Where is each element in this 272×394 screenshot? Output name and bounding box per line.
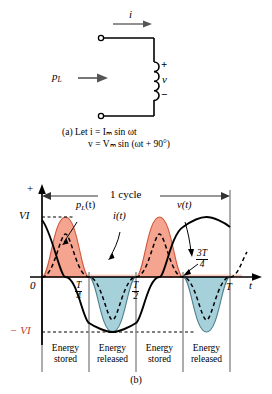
y-axis-arrowhead	[38, 184, 46, 194]
terminal-bottom	[98, 113, 103, 118]
region-label-3: Energy released	[183, 343, 230, 365]
tick-3t4-den: 4	[196, 260, 208, 270]
neg-vi-level-label: − VI	[10, 324, 31, 336]
minus-sign: −	[161, 88, 167, 100]
caption-a: (a) Let i = Iₘ sin ωt v = Vₘ sin (ωt + 9…	[62, 126, 170, 150]
voltage-label: v	[162, 73, 167, 85]
figure-container: i pL + v − (a) Let i = Iₘ sin ωt v = Vₘ …	[0, 0, 272, 394]
current-arrow-head	[143, 21, 152, 28]
power-curve-label: pL(t)	[76, 199, 95, 212]
caption-a-line1: (a) Let i = Iₘ sin ωt	[62, 127, 137, 137]
current-label: i	[129, 8, 132, 20]
power-fill-positive-1	[42, 217, 89, 277]
current-curve-label: i(t)	[113, 210, 126, 221]
tick-t4-num: T	[75, 281, 82, 292]
region-label-0-line2: stored	[42, 354, 89, 365]
region-label-1-line2: released	[89, 354, 136, 365]
region-label-2-line2: stored	[136, 354, 183, 365]
power-label: pL	[52, 70, 62, 84]
voltage-curve-label: v(t)	[177, 199, 192, 210]
origin-label: 0	[30, 279, 36, 291]
power-fill-negative-1	[89, 277, 136, 332]
x-axis-arrowhead	[252, 273, 262, 281]
region-label-3-line2: released	[183, 354, 230, 365]
terminal-top	[98, 35, 103, 40]
vi-level-label: VI	[19, 209, 29, 221]
x-axis-label: t	[249, 279, 252, 291]
circuit-diagram	[0, 0, 272, 125]
plus-sign: +	[161, 58, 167, 70]
cycle-span-arrow-right	[221, 192, 230, 200]
tick-label-t2: T2	[132, 281, 139, 301]
power-curve-label-arg: (t)	[85, 199, 95, 210]
tick-label-t: T	[226, 281, 232, 292]
region-label-3-line1: Energy	[183, 343, 230, 354]
region-label-1: Energy released	[89, 343, 136, 365]
tick-t4-den: 4	[75, 292, 82, 302]
tick-3t4-num: 3T	[196, 249, 208, 260]
region-label-0-line1: Energy	[42, 343, 89, 354]
tick-label-t4: T4	[75, 281, 82, 301]
region-label-0: Energy stored	[42, 343, 89, 365]
y-axis-plus-label: +	[27, 182, 33, 194]
region-label-1-line1: Energy	[89, 343, 136, 354]
region-label-2: Energy stored	[136, 343, 183, 365]
inductor-icon	[154, 62, 159, 100]
voltage-label-leader-head	[188, 249, 194, 257]
tick-label-3t4: 3T4	[196, 249, 208, 269]
cycle-label: 1 cycle	[110, 188, 141, 200]
power-fill-negative-2	[183, 277, 230, 332]
caption-a-line2: v = Vₘ sin (ωt + 90°)	[88, 138, 170, 150]
tick-t2-num: T	[132, 281, 139, 292]
power-label-sub: L	[58, 75, 62, 84]
tick-t2-den: 2	[132, 292, 139, 302]
voltage-label-leader	[185, 222, 191, 252]
power-arrow-head	[97, 74, 108, 83]
region-label-2-line1: Energy	[136, 343, 183, 354]
current-label-leader	[110, 232, 120, 257]
power-fill-positive-2	[136, 217, 183, 277]
caption-b: (b)	[0, 374, 272, 385]
